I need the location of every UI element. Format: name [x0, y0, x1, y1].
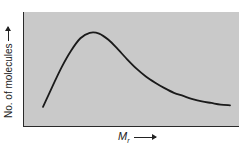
- y-axis-arrow-icon: [8, 27, 9, 41]
- x-axis-label: Mr: [118, 130, 156, 144]
- distribution-curve: [0, 0, 250, 150]
- y-axis-label: No. of molecules: [3, 27, 14, 118]
- y-axis-label-text: No. of molecules: [3, 44, 14, 118]
- x-axis-arrow-icon: [134, 137, 156, 138]
- x-axis-label-main: M: [118, 130, 127, 142]
- x-axis-label-sub: r: [127, 137, 129, 144]
